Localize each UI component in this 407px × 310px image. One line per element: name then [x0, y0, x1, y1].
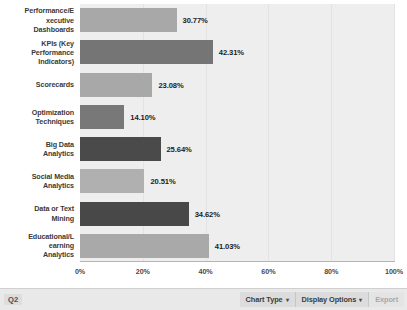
category-label-line: Techniques — [0, 117, 74, 126]
export-button[interactable]: Export — [368, 292, 404, 307]
category-label-line: Data or Text — [0, 204, 74, 213]
x-axis-tick-label: 40% — [199, 267, 213, 276]
bar-rows: Performance/ExecutiveDashboards30.77%KPI… — [0, 4, 402, 262]
bar[interactable] — [80, 137, 161, 161]
bar-row: Social MediaAnalytics20.51% — [0, 165, 402, 197]
bar[interactable] — [80, 202, 189, 226]
bar-chart: Performance/ExecutiveDashboards30.77%KPI… — [0, 0, 402, 285]
category-label: KPIs (KeyPerformanceIndicators) — [0, 39, 74, 67]
category-label: Performance/ExecutiveDashboards — [0, 6, 74, 34]
category-label-line: Optimization — [0, 108, 74, 117]
bar[interactable] — [80, 40, 213, 64]
bar-value-label: 30.77% — [183, 16, 208, 25]
bar[interactable] — [80, 105, 124, 129]
bar-value-label: 34.62% — [195, 210, 220, 219]
category-label-line: Analytics — [0, 181, 74, 190]
category-label-line: Mining — [0, 214, 74, 223]
x-axis-tick-label: 80% — [324, 267, 338, 276]
chart-type-button[interactable]: Chart Type ▾ — [240, 292, 295, 307]
x-axis-tick-label: 20% — [136, 267, 150, 276]
bar-value-label: 25.64% — [167, 145, 192, 154]
category-label-line: xecutive — [0, 16, 74, 25]
bar-row: Data or TextMining34.62% — [0, 198, 402, 230]
category-label-line: Dashboards — [0, 25, 74, 34]
category-label-line: Analytics — [0, 250, 74, 259]
category-label: Educational/LearningAnalytics — [0, 232, 74, 260]
display-options-label: Display Options — [302, 295, 357, 304]
category-label-line: Performance/E — [0, 6, 74, 15]
category-label-line: Performance — [0, 48, 74, 57]
bar[interactable] — [80, 73, 152, 97]
bar-value-label: 14.10% — [130, 113, 155, 122]
display-options-button[interactable]: Display Options ▾ — [295, 292, 369, 307]
bar-row: OptimizationTechniques14.10% — [0, 101, 402, 133]
category-label: Scorecards — [0, 80, 74, 89]
bar[interactable] — [80, 169, 144, 193]
category-label-line: Social Media — [0, 172, 74, 181]
chart-type-label: Chart Type — [246, 295, 283, 304]
bar-value-label: 42.31% — [219, 48, 244, 57]
bar[interactable] — [80, 8, 177, 32]
x-axis-tick-label: 0% — [75, 267, 85, 276]
slide-indicator: Q2 — [4, 294, 22, 305]
toolbar-buttons: Chart Type ▾ Display Options ▾ Export — [240, 292, 404, 307]
x-axis-tick-label: 100% — [385, 267, 403, 276]
category-label-line: KPIs (Key — [0, 39, 74, 48]
bar[interactable] — [80, 234, 209, 258]
category-label-line: earning — [0, 241, 74, 250]
chart-screen: Performance/ExecutiveDashboards30.77%KPI… — [0, 0, 407, 310]
chevron-down-icon: ▾ — [286, 297, 289, 303]
bar-value-label: 23.08% — [158, 81, 183, 90]
category-label-line: Scorecards — [0, 80, 74, 89]
category-label-line: Big Data — [0, 140, 74, 149]
chevron-down-icon: ▾ — [359, 297, 362, 303]
x-axis: 0%20%40%60%80%100% — [0, 264, 402, 280]
bar-row: Big DataAnalytics25.64% — [0, 133, 402, 165]
bar-row: Educational/LearningAnalytics41.03% — [0, 230, 402, 262]
bar-value-label: 20.51% — [150, 177, 175, 186]
category-label: Social MediaAnalytics — [0, 172, 74, 190]
x-axis-tick-label: 60% — [261, 267, 275, 276]
category-label: Data or TextMining — [0, 204, 74, 222]
bar-row: Performance/ExecutiveDashboards30.77% — [0, 4, 402, 36]
category-label-line: Educational/L — [0, 232, 74, 241]
export-label: Export — [375, 295, 398, 304]
bar-row: KPIs (KeyPerformanceIndicators)42.31% — [0, 36, 402, 68]
category-label-line: Analytics — [0, 149, 74, 158]
category-label: Big DataAnalytics — [0, 140, 74, 158]
bar-row: Scorecards23.08% — [0, 69, 402, 101]
category-label-line: Indicators) — [0, 57, 74, 66]
bottom-toolbar: Q2 Chart Type ▾ Display Options ▾ Export — [0, 288, 407, 310]
bar-value-label: 41.03% — [215, 242, 240, 251]
category-label: OptimizationTechniques — [0, 108, 74, 126]
